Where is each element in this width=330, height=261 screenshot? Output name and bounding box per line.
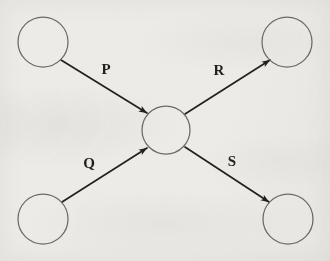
node-top-right <box>262 17 312 67</box>
diagram-canvas: P R Q S <box>0 0 330 261</box>
edge-label-p: P <box>101 61 110 77</box>
edge-labels-group: P R Q S <box>83 61 236 171</box>
node-diagram-svg: P R Q S <box>0 0 330 261</box>
node-bottom-right <box>263 194 313 244</box>
nodes-group <box>18 17 313 244</box>
edge-label-s: S <box>228 153 236 169</box>
edge-label-r: R <box>214 62 225 78</box>
node-center <box>142 106 190 154</box>
edge-label-q: Q <box>83 155 95 171</box>
edge-r-line <box>185 60 270 114</box>
node-bottom-left <box>18 194 68 244</box>
node-top-left <box>18 17 68 67</box>
edges-group <box>61 60 270 202</box>
edge-q-line <box>62 148 147 202</box>
